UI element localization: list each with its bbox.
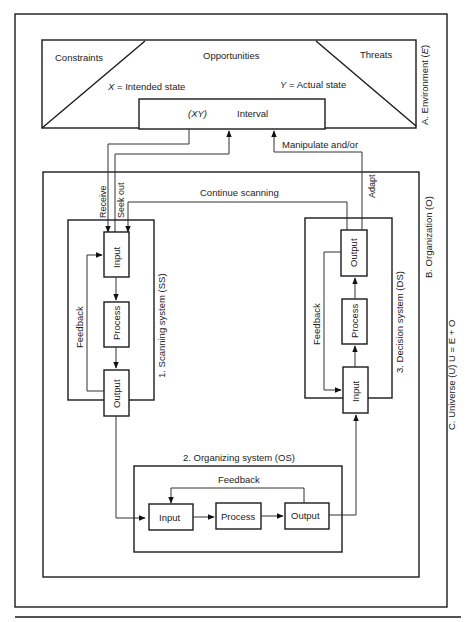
ss-feedback-arrow <box>87 255 104 391</box>
os-process-label: Process <box>221 511 256 522</box>
scanning-system: Input Process Output Feedback 1. Scannin… <box>68 220 167 416</box>
os-input-label: Input <box>159 512 180 523</box>
ds-feedback-arrow <box>324 252 341 390</box>
opportunities-label: Opportunities <box>203 50 260 61</box>
universe-label: C. Universe (U) U = E + O <box>446 320 457 430</box>
os-output-label: Output <box>291 510 320 521</box>
seek-out-arrow <box>115 131 229 232</box>
systems-diagram: Constraints Opportunities Threats X = In… <box>0 0 472 622</box>
interval-box <box>139 99 325 129</box>
ss-label: 1. Scanning system (SS) <box>156 273 167 378</box>
ss-process-label: Process <box>111 305 122 340</box>
ds-label: 3. Decision system (DS) <box>394 271 405 373</box>
os-feedback-label: Feedback <box>218 474 260 485</box>
environment-label: A. Environment (E) <box>419 45 430 125</box>
ss-to-os-arrow <box>116 416 145 518</box>
ds-input-label: Input <box>350 381 361 402</box>
organizing-system: 2. Organizing system (OS) Feedback Input… <box>134 452 342 552</box>
adapt-label: Adapt <box>367 174 377 198</box>
interval-var-label: (XY) <box>188 108 207 119</box>
ss-input-label: Input <box>111 247 122 268</box>
decision-system: Output Process Input Feedback 3. Decisio… <box>305 218 405 413</box>
continue-scanning-arrow <box>128 202 347 232</box>
intended-state-label: X = Intended state <box>107 81 185 92</box>
constraints-label: Constraints <box>55 52 103 63</box>
ss-output-label: Output <box>111 379 122 408</box>
interval-label: Interval <box>237 108 268 119</box>
os-label: 2. Organizing system (OS) <box>183 452 295 463</box>
ds-feedback-label: Feedback <box>311 303 322 345</box>
actual-state-label: Y = Actual state <box>280 79 346 90</box>
ds-process-label: Process <box>349 303 360 338</box>
seek-out-label: Seek out <box>116 182 126 218</box>
receive-label: Receive <box>98 185 108 218</box>
threats-label: Threats <box>360 49 392 60</box>
ds-output-label: Output <box>348 238 359 267</box>
manipulate-label: Manipulate and/or <box>282 139 358 150</box>
organization-label: B. Organization (O) <box>423 196 434 278</box>
ss-feedback-label: Feedback <box>74 306 85 348</box>
continue-scanning-label: Continue scanning <box>200 187 279 198</box>
